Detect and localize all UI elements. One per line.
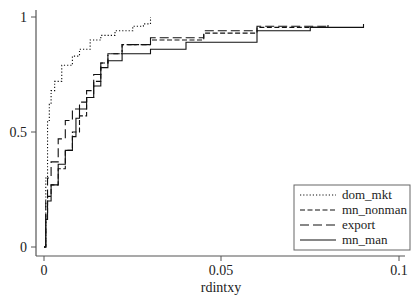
y-ticks: 1 0.5 0	[10, 10, 37, 255]
legend: dom_mktmn_nonmanexportmn_man	[294, 185, 410, 250]
x-tick-label: 0	[41, 263, 48, 278]
series-line-export	[44, 24, 328, 247]
y-tick-label: 1	[20, 10, 27, 25]
x-axis-title: rdintxy	[201, 280, 241, 295]
y-tick-label: 0.5	[10, 125, 28, 140]
series-line-dom-mkt	[44, 17, 151, 247]
legend-label: export	[342, 217, 376, 232]
y-tick-label: 0	[20, 240, 27, 255]
x-tick-label: 0.1	[390, 263, 408, 278]
ecdf-chart: 1 0.5 0 0 0.05 0.1 rdintxy dom_mktmn_non…	[0, 0, 418, 303]
x-ticks: 0 0.05 0.1	[41, 256, 408, 278]
legend-label: mn_man	[342, 232, 388, 247]
x-tick-label: 0.05	[209, 263, 234, 278]
series-line-mn-nonman	[44, 25, 328, 247]
legend-label: dom_mkt	[342, 187, 392, 202]
legend-label: mn_nonman	[342, 202, 407, 217]
